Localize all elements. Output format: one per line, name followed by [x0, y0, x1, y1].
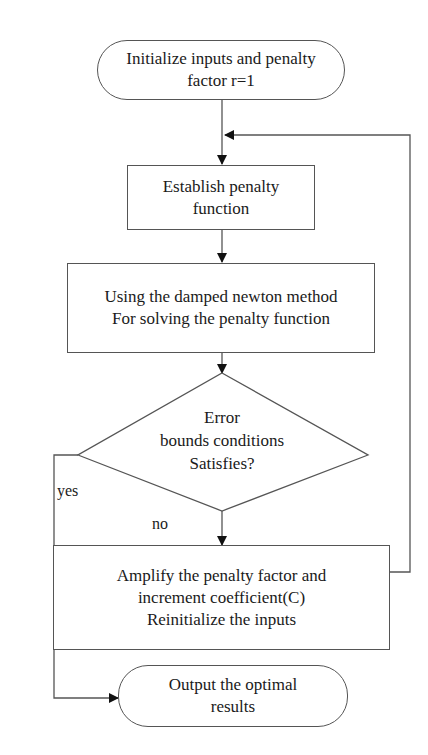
output-text-line-2: results	[211, 696, 255, 718]
solve-process-box: Using the damped newton method For solvi…	[67, 263, 375, 353]
yes-label: yes	[57, 482, 78, 500]
output-text-line-1: Output the optimal	[169, 674, 297, 696]
establish-process-box: Establish penalty function	[127, 165, 315, 230]
decision-text: Error bounds conditions Satisfies?	[122, 406, 322, 475]
establish-text-line-1: Establish penalty	[163, 176, 280, 198]
decision-text-line-2: bounds conditions	[122, 429, 322, 452]
start-terminal: Initialize inputs and penalty factor r=1	[97, 40, 345, 100]
amplify-text-line-3: Reinitialize the inputs	[147, 609, 296, 631]
establish-text-line-2: function	[193, 198, 250, 220]
amplify-process-box: Amplify the penalty factor and increment…	[53, 545, 390, 650]
solve-text-line-1: Using the damped newton method	[104, 286, 337, 308]
no-label: no	[152, 515, 168, 533]
output-terminal: Output the optimal results	[118, 665, 348, 727]
start-text-line-2: factor r=1	[187, 70, 255, 92]
amplify-text-line-2: increment coefficient(C)	[138, 587, 305, 609]
start-text-line-1: Initialize inputs and penalty	[126, 48, 315, 70]
amplify-text-line-1: Amplify the penalty factor and	[117, 565, 327, 587]
decision-text-line-1: Error	[122, 406, 322, 429]
decision-text-line-3: Satisfies?	[122, 452, 322, 475]
solve-text-line-2: For solving the penalty function	[112, 308, 330, 330]
